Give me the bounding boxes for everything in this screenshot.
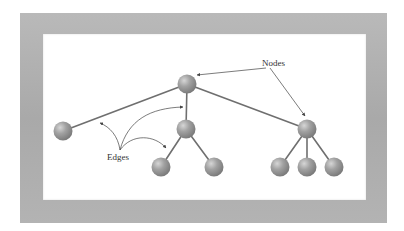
arrow-icon (100, 123, 120, 150)
tree-diagram: Nodes Edges (0, 0, 404, 231)
node-right-child-2 (298, 158, 317, 177)
node-middle-child-1 (152, 158, 171, 177)
edges-annotation-arrows (100, 107, 183, 150)
arrow-icon (120, 107, 183, 150)
edges-group (63, 84, 334, 167)
arrow-icon (120, 138, 166, 150)
node-right (298, 120, 317, 139)
edge-root-left (63, 84, 187, 131)
node-middle (177, 120, 196, 139)
nodes-group (54, 75, 344, 177)
arrow-icon (270, 68, 305, 116)
node-root (178, 75, 197, 94)
edges-label: Edges (107, 152, 129, 162)
arrow-icon (197, 68, 266, 75)
node-right-child-1 (271, 158, 290, 177)
node-left (54, 122, 73, 141)
node-middle-child-2 (205, 158, 224, 177)
node-right-child-3 (325, 158, 344, 177)
nodes-label: Nodes (262, 58, 285, 68)
edge-root-right (187, 84, 307, 129)
